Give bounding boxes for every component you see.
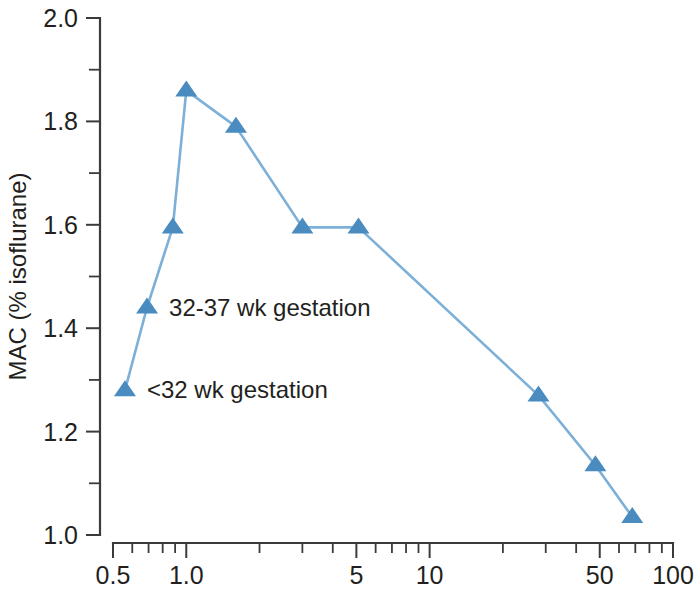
- y-axis-ticks: [86, 18, 100, 535]
- annotation-group: 32-37 wk gestation<32 wk gestation: [147, 294, 371, 404]
- x-axis-ticks: [113, 543, 673, 558]
- y-tick-label: 2.0: [43, 4, 78, 32]
- data-point-marker: [136, 298, 158, 314]
- x-tick-label: 0.5: [96, 561, 131, 589]
- y-tick-label: 1.6: [43, 211, 78, 239]
- data-point-marker: [175, 80, 197, 96]
- chart-figure: 1.01.21.41.61.82.0 MAC (% isoflurane) 0.…: [0, 0, 694, 597]
- y-tick-label: 1.4: [43, 314, 78, 342]
- x-tick-label: 50: [586, 561, 614, 589]
- chart-annotation: 32-37 wk gestation: [169, 294, 370, 321]
- x-axis-group: 0.51.051050100 Postconceptual age (years…: [96, 543, 694, 597]
- y-tick-label: 1.8: [43, 107, 78, 135]
- data-point-marker: [621, 507, 643, 523]
- chart-svg: 1.01.21.41.61.82.0 MAC (% isoflurane) 0.…: [0, 0, 694, 597]
- y-axis-group: 1.01.21.41.61.82.0 MAC (% isoflurane): [4, 4, 100, 549]
- data-point-marker: [162, 217, 184, 233]
- x-tick-label: 100: [652, 561, 694, 589]
- y-tick-label: 1.0: [43, 521, 78, 549]
- data-point-marker: [347, 217, 369, 233]
- y-tick-label: 1.2: [43, 418, 78, 446]
- x-tick-label: 1.0: [169, 561, 204, 589]
- y-axis-title: MAC (% isoflurane): [4, 172, 31, 380]
- y-axis-tick-labels: 1.01.21.41.61.82.0: [43, 4, 78, 549]
- x-axis-tick-labels: 0.51.051050100: [96, 561, 694, 589]
- data-point-marker: [291, 217, 313, 233]
- chart-annotation: <32 wk gestation: [147, 376, 328, 403]
- data-point-marker: [225, 117, 247, 133]
- x-tick-label: 5: [349, 561, 363, 589]
- data-point-marker: [114, 380, 136, 396]
- x-tick-label: 10: [416, 561, 444, 589]
